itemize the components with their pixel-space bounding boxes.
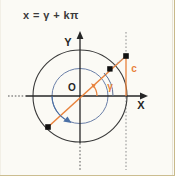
point-opposite-on-circle	[45, 124, 51, 130]
point-c-top	[123, 53, 129, 59]
y-axis-label: Y	[64, 36, 72, 48]
math-figure: Y X O γ c	[0, 0, 175, 180]
figure-canvas: x = γ + kπ	[0, 0, 175, 180]
angle-label: γ	[107, 81, 113, 92]
y-axis-arrowhead	[77, 31, 84, 39]
rotation-arc-arrowhead	[63, 117, 71, 124]
terminal-ray-line	[48, 56, 126, 127]
x-axis-label: X	[137, 99, 145, 111]
origin-label: O	[68, 82, 76, 93]
rotation-arc	[52, 96, 68, 121]
c-segment-label: c	[131, 63, 137, 74]
point-terminal-on-circle	[107, 66, 112, 71]
